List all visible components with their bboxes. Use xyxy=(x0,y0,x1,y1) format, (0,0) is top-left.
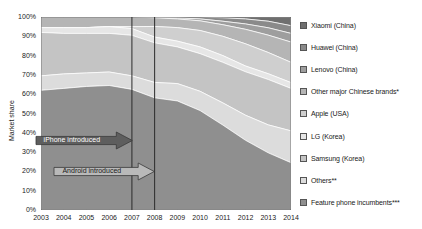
legend-item-label: Xiaomi (China) xyxy=(311,22,356,29)
x-axis-tick: 2014 xyxy=(278,214,304,221)
legend-item[interactable]: Samsung (Korea) xyxy=(300,147,422,169)
legend-swatch-icon xyxy=(300,44,307,51)
legend-item-label: Huawei (China) xyxy=(311,44,358,51)
legend-item-label: Others** xyxy=(311,177,337,184)
y-axis-tick: 10% xyxy=(10,187,36,194)
iphone-annotation: iPhone introduced xyxy=(36,132,132,149)
legend-item[interactable]: Lenovo (China) xyxy=(300,58,422,80)
y-axis-tick: 0% xyxy=(10,206,36,213)
legend-swatch-icon xyxy=(300,199,307,206)
legend-item[interactable]: Apple (USA) xyxy=(300,103,422,125)
legend-item[interactable]: LG (Korea) xyxy=(300,125,422,147)
legend-item[interactable]: Xiaomi (China) xyxy=(300,14,422,36)
y-axis-tick: 100% xyxy=(10,13,36,20)
y-axis-tick: 60% xyxy=(10,90,36,97)
legend-swatch-icon xyxy=(300,22,307,29)
legend-swatch-icon xyxy=(300,133,307,140)
android-annotation: Android introduced xyxy=(54,163,154,180)
legend-swatch-icon xyxy=(300,177,307,184)
chart-legend: Xiaomi (China)Huawei (China)Lenovo (Chin… xyxy=(300,14,422,214)
y-axis-tick: 50% xyxy=(10,110,36,117)
legend-swatch-icon xyxy=(300,88,307,95)
legend-swatch-icon xyxy=(300,155,307,162)
y-axis-tick: 30% xyxy=(10,148,36,155)
y-axis-tick: 80% xyxy=(10,52,36,59)
legend-item[interactable]: Huawei (China) xyxy=(300,36,422,58)
legend-item-label: Samsung (Korea) xyxy=(311,155,364,162)
legend-swatch-icon xyxy=(300,110,307,117)
legend-item-label: Lenovo (China) xyxy=(311,66,357,73)
legend-item[interactable]: Feature phone incumbents*** xyxy=(300,192,422,214)
iphone-annotation-label: iPhone introduced xyxy=(44,136,100,143)
y-axis-tick: 40% xyxy=(10,129,36,136)
legend-item-label: Feature phone incumbents*** xyxy=(311,199,400,206)
android-annotation-label: Android introduced xyxy=(62,167,121,174)
legend-item-label: LG (Korea) xyxy=(311,133,345,140)
chart-figure: Market share 0%10%20%30%40%50%60%70%80%9… xyxy=(0,0,422,229)
legend-item-label: Apple (USA) xyxy=(311,110,349,117)
y-axis-tick: 90% xyxy=(10,32,36,39)
legend-swatch-icon xyxy=(300,66,307,73)
legend-item[interactable]: Others** xyxy=(300,169,422,191)
legend-item-label: Other major Chinese brands* xyxy=(311,88,399,95)
plot-area xyxy=(41,17,291,210)
legend-item[interactable]: Other major Chinese brands* xyxy=(300,81,422,103)
y-axis-tick: 20% xyxy=(10,167,36,174)
y-axis-tick: 70% xyxy=(10,71,36,78)
